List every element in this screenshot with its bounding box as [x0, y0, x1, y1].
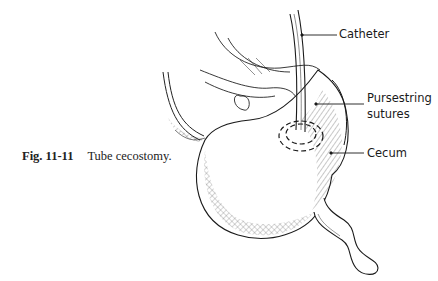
label-cecum: Cecum [367, 146, 407, 161]
figure-title: Tube cecostomy. [87, 149, 171, 163]
label-sutures: sutures [367, 107, 410, 122]
tissue-fold [234, 95, 249, 110]
appendix [314, 198, 378, 274]
label-pursestring: Pursestring [367, 91, 432, 106]
label-catheter: Catheter [339, 27, 389, 42]
figure-caption: Fig. 11-11Tube cecostomy. [22, 149, 172, 164]
bowel-loop-left [163, 72, 205, 140]
tube-cecostomy-illustration [0, 0, 438, 281]
figure-number: Fig. 11-11 [22, 149, 73, 163]
